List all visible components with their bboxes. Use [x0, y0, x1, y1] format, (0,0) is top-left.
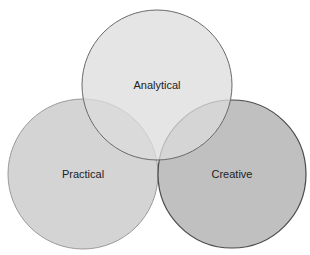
creative-label: Creative — [212, 168, 253, 180]
analytical-label: Analytical — [133, 79, 180, 91]
venn-diagram — [0, 0, 310, 255]
practical-label: Practical — [62, 168, 104, 180]
